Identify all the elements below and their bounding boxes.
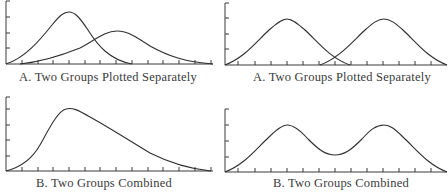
x-axis [6, 167, 213, 171]
x-axis [6, 60, 213, 64]
group-2-curve [320, 19, 447, 65]
combined-curve [225, 125, 447, 172]
chart-caption: A. Two Groups Plotted Separately [19, 70, 197, 85]
x-axis [225, 168, 447, 172]
y-axis [225, 3, 229, 65]
group-1-curve [225, 19, 350, 65]
chart-panel-bottom-right: B. Two Groups Combined [224, 97, 448, 194]
chart-caption: B. Two Groups Combined [273, 176, 409, 191]
y-axis [6, 1, 10, 64]
chart-panel-top-right: A. Two Groups Plotted Separately [224, 0, 448, 97]
chart-panel-bottom-left: B. Two Groups Combined [0, 97, 224, 194]
combined-curve [6, 108, 211, 171]
chart-caption: A. Two Groups Plotted Separately [253, 70, 431, 85]
group-1-curve [6, 12, 132, 64]
y-axis [6, 97, 10, 171]
y-axis [225, 109, 229, 172]
chart-caption: B. Two Groups Combined [36, 176, 172, 191]
chart-panel-top-left: A. Two Groups Plotted Separately [0, 0, 224, 97]
x-axis [225, 61, 447, 65]
